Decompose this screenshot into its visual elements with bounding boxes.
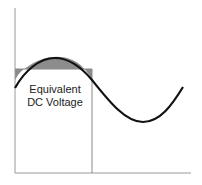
label-line-1: Equivalent — [25, 83, 85, 96]
equivalent-dc-voltage-diagram: Equivalent DC Voltage — [0, 0, 202, 185]
label-line-2: DC Voltage — [25, 96, 85, 109]
equivalent-dc-voltage-label: Equivalent DC Voltage — [25, 83, 85, 109]
